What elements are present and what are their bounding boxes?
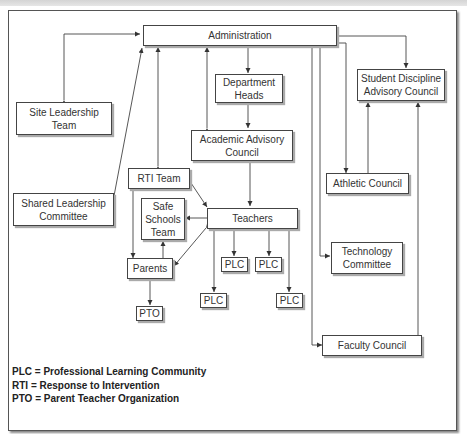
- legend-pto: PTO = Parent Teacher Organization: [12, 392, 206, 406]
- node-plc: PLC: [221, 257, 248, 272]
- node-technology-committee: Technology Committee: [331, 242, 403, 274]
- node-athletic-council: Athletic Council: [326, 173, 409, 194]
- node-academic-advisory-council: Academic Advisory Council: [191, 130, 293, 161]
- legend-rti: RTI = Response to Intervention: [12, 379, 206, 393]
- node-plc: PLC: [200, 293, 227, 308]
- legend-plc: PLC = Professional Learning Community: [12, 365, 206, 379]
- node-label: Safe Schools Team: [142, 200, 184, 239]
- node-label: Academic Advisory Council: [192, 133, 292, 159]
- node-label: Administration: [208, 29, 271, 42]
- node-pto: PTO: [136, 306, 163, 321]
- node-label: Site Leadership Team: [17, 106, 111, 132]
- node-safe-schools-team: Safe Schools Team: [141, 198, 185, 240]
- node-label: Shared Leadership Committee: [14, 197, 113, 223]
- node-department-heads: Department Heads: [215, 74, 283, 103]
- node-label: Teachers: [232, 212, 273, 225]
- node-label: Student Discipline Advisory Council: [358, 72, 444, 98]
- node-teachers: Teachers: [207, 208, 298, 229]
- node-rti-team: RTI Team: [128, 168, 190, 189]
- node-label: RTI Team: [138, 172, 181, 185]
- legend: PLC = Professional Learning Community RT…: [12, 365, 206, 406]
- node-label: PLC: [280, 294, 299, 307]
- node-label: Athletic Council: [333, 177, 402, 190]
- node-plc: PLC: [255, 257, 282, 272]
- node-label: Faculty Council: [338, 339, 406, 352]
- node-site-leadership-team: Site Leadership Team: [16, 102, 112, 135]
- node-label: PTO: [139, 307, 159, 320]
- node-plc: PLC: [276, 293, 303, 308]
- node-label: PLC: [204, 294, 223, 307]
- node-shared-leadership-committee: Shared Leadership Committee: [13, 193, 114, 226]
- node-faculty-council: Faculty Council: [322, 335, 422, 356]
- node-label: PLC: [225, 258, 244, 271]
- node-label: Technology Committee: [332, 245, 402, 271]
- node-label: Parents: [133, 262, 167, 275]
- node-administration: Administration: [143, 25, 337, 46]
- node-student-discipline-advisory-council: Student Discipline Advisory Council: [357, 69, 445, 101]
- node-label: Department Heads: [216, 76, 282, 102]
- node-label: PLC: [259, 258, 278, 271]
- node-parents: Parents: [127, 258, 173, 279]
